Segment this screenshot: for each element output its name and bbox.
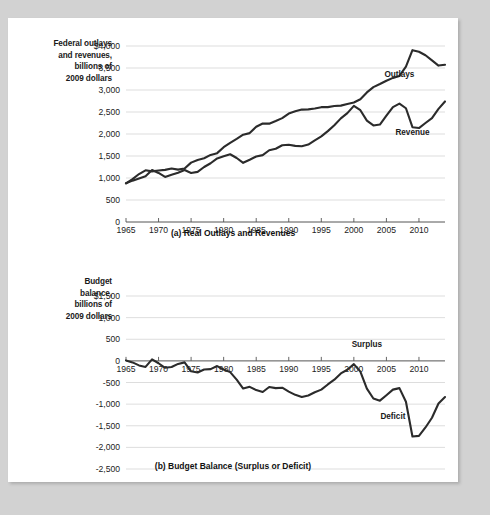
data-line-revenue [126, 101, 445, 183]
y-tick-label: -1,500 [96, 421, 121, 431]
y-tick-label: 1,000 [98, 173, 120, 183]
chart-panel-a: Federal outlays and revenues, billions o… [8, 18, 458, 256]
x-tick-label: 1985 [247, 364, 266, 374]
series-annotation-surplus: Surplus [352, 340, 383, 349]
series-annotation-outlays: Outlays [384, 70, 414, 79]
x-tick-label: 1990 [279, 364, 298, 374]
y-axis-title-a-line-2: and revenues, [16, 50, 112, 62]
y-tick-label: 500 [106, 334, 121, 344]
chart-b-caption: (b) Budget Balance (Surplus or Deficit) [8, 461, 458, 471]
series-annotation-deficit: Deficit [380, 412, 405, 421]
y-axis-title-a-line-1: Federal outlays [16, 38, 112, 50]
y-axis-title-b-line-2: balance, [16, 288, 112, 300]
x-tick-label: 2005 [377, 364, 396, 374]
chart-panel-b: Budget balance, billions of 2009 dollars… [8, 256, 458, 482]
x-tick-label: 1995 [312, 364, 331, 374]
chart-a-caption: (a) Real Outlays and Revenues [8, 228, 458, 238]
series-annotation-revenue: Revenue [395, 128, 430, 137]
x-tick-label: 1970 [149, 364, 168, 374]
y-axis-title-b-line-4: 2009 dollars [16, 311, 112, 323]
x-tick-label: 1965 [116, 364, 135, 374]
y-axis-title-b: Budget balance, billions of 2009 dollars [16, 276, 112, 322]
y-axis-title-b-line-3: billions of [16, 299, 112, 311]
y-tick-label: -2,000 [96, 442, 121, 452]
y-axis-title-a-line-3: billions of [16, 61, 112, 73]
y-tick-label: -500 [103, 378, 120, 388]
y-axis-title-a: Federal outlays and revenues, billions o… [16, 38, 112, 84]
x-tick-label: 2010 [409, 364, 428, 374]
y-axis-title-a-line-4: 2009 dollars [16, 73, 112, 85]
y-tick-label: 2,500 [98, 107, 120, 117]
y-axis-title-b-line-1: Budget [16, 276, 112, 288]
y-tick-label: -1,000 [96, 399, 121, 409]
y-tick-label: 2,000 [98, 129, 120, 139]
y-tick-label: 1,500 [98, 151, 120, 161]
y-tick-label: 3,000 [98, 85, 120, 95]
figure-page: Federal outlays and revenues, billions o… [8, 18, 458, 482]
y-tick-label: 500 [106, 195, 121, 205]
